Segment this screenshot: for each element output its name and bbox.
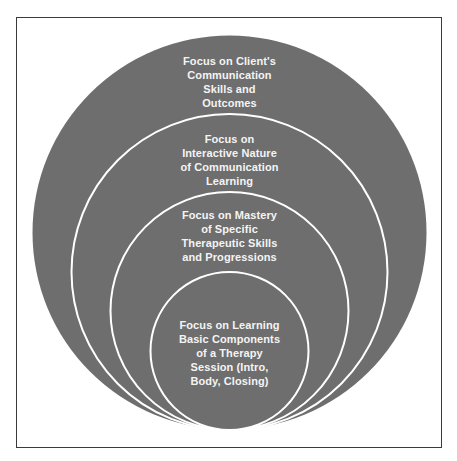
level-3-label: Focus on Mastery of Specific Therapeutic… — [129, 208, 330, 264]
level-2-line: Learning — [129, 174, 330, 188]
level-2-line: of Communication — [129, 160, 330, 174]
level-3-line: Therapeutic Skills — [129, 236, 330, 250]
level-4-line: Session (Intro, — [129, 360, 330, 374]
level-4-line: Body, Closing) — [129, 374, 330, 388]
level-3-line: of Specific — [129, 222, 330, 236]
level-2-label: Focus on Interactive Nature of Communica… — [129, 132, 330, 188]
level-2-line: Interactive Nature — [129, 146, 330, 160]
level-1-line: Communication — [129, 68, 330, 82]
level-4-line: of a Therapy — [129, 346, 330, 360]
level-4-line: Basic Components — [129, 332, 330, 346]
level-3-line: Focus on Mastery — [129, 208, 330, 222]
level-3-line: and Progressions — [129, 250, 330, 264]
level-1-line: Focus on Client's — [129, 54, 330, 68]
level-1-line: Skills and — [129, 82, 330, 96]
level-2-line: Focus on — [129, 132, 330, 146]
level-1-label: Focus on Client's Communication Skills a… — [129, 54, 330, 110]
level-4-line: Focus on Learning — [129, 318, 330, 332]
level-4-label: Focus on Learning Basic Components of a … — [129, 318, 330, 388]
level-1-line: Outcomes — [129, 96, 330, 110]
